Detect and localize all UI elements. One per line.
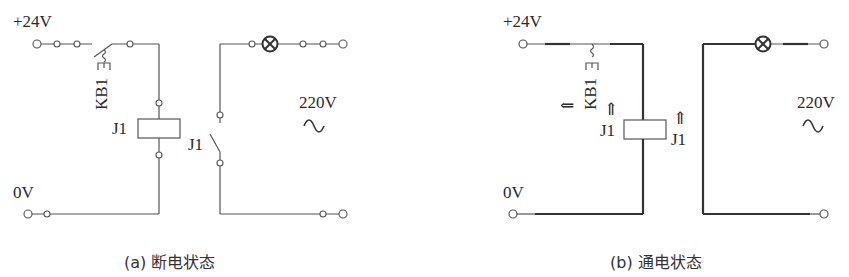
kb1-spring-icon [591, 44, 594, 57]
contact-label: J1 [188, 135, 203, 154]
kb1-button-icon [586, 63, 598, 70]
terminal-icon [33, 40, 41, 48]
panel-b: +24V KB1 ⇐ ⇑ J1 ⇑ J1 0V [503, 12, 836, 272]
ac-voltage-label: 220V [797, 93, 836, 112]
coil-label: J1 [112, 119, 127, 138]
caption-b: (b) 通电状态 [610, 253, 702, 272]
lamp-icon [263, 37, 278, 52]
coil-label: J1 [600, 121, 615, 140]
relay-circuit-diagram: +24V KB1 J1 0V J1 [0, 0, 849, 277]
press-arrow-icon: ⇐ [560, 96, 574, 115]
kb1-button-icon [98, 63, 110, 70]
lamp-icon [756, 37, 771, 52]
terminal-icon [519, 40, 527, 48]
terminal-icon [54, 41, 60, 47]
supply-pos-label: +24V [13, 12, 53, 31]
j1-contact-icon [210, 134, 220, 152]
kb1-spring-icon [103, 50, 106, 62]
ac-voltage-label: 220V [299, 93, 338, 112]
supply-neg-label: 0V [13, 183, 35, 202]
caption-a: (a) 断电状态 [124, 253, 215, 272]
terminal-icon [74, 41, 80, 47]
j1-coil-icon [624, 120, 666, 139]
up-arrow-icon: ⇑ [604, 100, 618, 119]
up-arrow-icon: ⇑ [673, 109, 687, 128]
supply-pos-label: +24V [503, 12, 543, 31]
ac-symbol-icon [803, 120, 823, 132]
panel-a: +24V KB1 J1 0V J1 [13, 12, 347, 272]
kb1-label: KB1 [581, 78, 600, 110]
supply-neg-label: 0V [503, 183, 525, 202]
ac-symbol-icon [304, 120, 324, 132]
kb1-label: KB1 [92, 78, 111, 110]
j1-coil-icon [138, 119, 180, 138]
contact-label: J1 [671, 130, 686, 149]
